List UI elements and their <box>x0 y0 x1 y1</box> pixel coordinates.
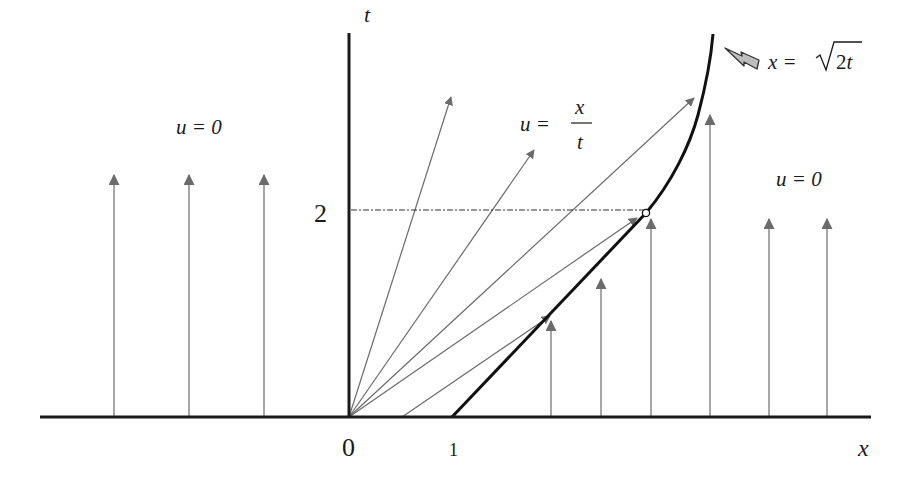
right-region-label: u = 0 <box>776 167 822 191</box>
left-region-label: u = 0 <box>176 115 222 139</box>
fan-label-lhs: u = <box>520 112 550 136</box>
fan-arrow <box>402 316 550 417</box>
fan-region-label: u = x t <box>520 95 592 154</box>
fan-characteristics <box>349 97 694 417</box>
shock-transition-point <box>642 209 649 216</box>
right-characteristics <box>551 115 827 417</box>
left-characteristics <box>114 175 264 417</box>
lightning-icon <box>725 48 759 69</box>
x-axis-label: x <box>857 435 869 461</box>
sqrt-arg-2: 2 <box>836 50 847 74</box>
shock-label: x = 2t <box>725 42 862 74</box>
shock-line <box>452 213 646 417</box>
characteristics-diagram: t x 0 1 2 u = 0 u = 0 u = x t x = 2t <box>0 0 916 483</box>
fan-arrow <box>349 98 694 417</box>
sqrt-arg-t: t <box>847 50 854 74</box>
x-tick-1-label: 1 <box>449 440 458 460</box>
fan-arrow <box>349 218 637 417</box>
shock-label-sqrt-arg: 2t <box>836 50 854 74</box>
fan-label-numerator: x <box>574 95 585 119</box>
t-axis-label: t <box>364 2 371 27</box>
origin-label: 0 <box>342 433 355 462</box>
fan-label-denominator: t <box>577 130 584 154</box>
t-tick-2-label: 2 <box>314 199 327 228</box>
shock-curve <box>646 34 713 213</box>
fan-arrow <box>349 97 451 417</box>
shock-label-lhs: x = <box>767 50 797 74</box>
fan-arrow <box>349 150 534 417</box>
